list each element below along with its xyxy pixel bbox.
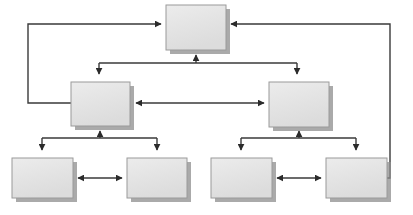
node-leaf-4-body[interactable] bbox=[326, 158, 387, 198]
node-root[interactable] bbox=[166, 5, 230, 54]
node-left-branch[interactable] bbox=[71, 82, 134, 130]
node-left-branch-body[interactable] bbox=[71, 82, 130, 126]
edge-branch-bar-right bbox=[241, 131, 356, 150]
edge-branch-bar-left bbox=[42, 131, 157, 150]
node-leaf-1-body[interactable] bbox=[12, 158, 73, 198]
node-root-body[interactable] bbox=[166, 5, 226, 50]
node-leaf-3-body[interactable] bbox=[211, 158, 272, 198]
node-leaf-3[interactable] bbox=[211, 158, 276, 202]
diagram-canvas bbox=[0, 0, 413, 215]
node-leaf-1[interactable] bbox=[12, 158, 77, 202]
node-leaf-2-body[interactable] bbox=[127, 158, 187, 198]
node-right-branch[interactable] bbox=[269, 82, 333, 131]
edge-branch-bar-top bbox=[99, 55, 297, 74]
node-leaf-4[interactable] bbox=[326, 158, 391, 202]
block-diagram bbox=[0, 0, 413, 215]
node-right-branch-body[interactable] bbox=[269, 82, 329, 127]
node-leaf-2[interactable] bbox=[127, 158, 191, 202]
